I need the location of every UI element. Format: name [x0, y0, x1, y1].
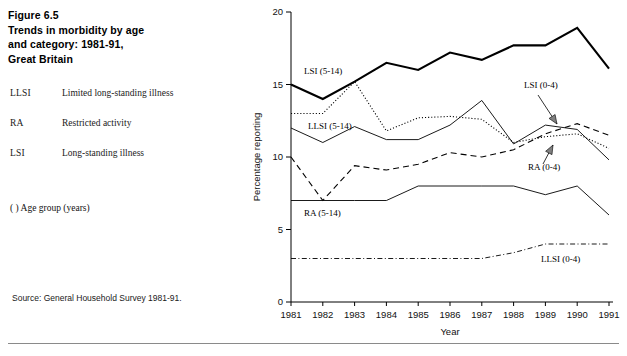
figure-title-line-2: Trends in morbidity by age [8, 23, 248, 38]
left-text-column: Figure 6.5 Trends in morbidity by age an… [8, 8, 248, 348]
x-tick-label: 1983 [344, 309, 365, 320]
chart-axes: 0510152019811982198319841985198619871988… [251, 6, 620, 337]
x-tick-label: 1982 [312, 309, 333, 320]
x-axis-title: Year [440, 326, 459, 337]
x-tick-label: 1990 [567, 309, 588, 320]
legend-row-llsi: LLSI Limited long-standing illness [10, 88, 248, 118]
figure-title-line-4: Great Britain [8, 52, 248, 67]
age-group-note: ( ) Age group (years) [10, 203, 90, 213]
figure-title-line-3: and category: 1981-91, [8, 37, 248, 52]
x-tick-label: 1987 [471, 309, 492, 320]
x-tick-label: 1985 [408, 309, 429, 320]
series-label-ra-5-14: RA (5-14) [304, 208, 341, 218]
chart-series-lines [291, 28, 609, 259]
chart-annotations: LSI (5-14)LLSI (5-14)RA (5-14)RA (0-4)LS… [304, 66, 580, 264]
series-label-lsi-0-4: LSI (0-4) [524, 80, 558, 90]
legend-abbr-llsi: LLSI [10, 88, 31, 98]
series-line-lsi-5-14 [291, 28, 609, 99]
x-tick-label: 1981 [280, 309, 301, 320]
legend-row-lsi: LSI Long-standing illness [10, 148, 248, 178]
y-tick-label: 0 [278, 296, 283, 307]
legend-text-ra: Restricted activity [62, 118, 131, 128]
x-tick-label: 1984 [376, 309, 397, 320]
series-line-lsi-0-4 [291, 124, 609, 201]
y-axis-title: Percentage reporting [251, 113, 262, 202]
bottom-divider [8, 343, 619, 344]
legend-abbr-ra: RA [10, 118, 24, 128]
x-tick-label: 1989 [535, 309, 556, 320]
annotation-arrow-head [546, 145, 553, 155]
line-chart: 0510152019811982198319841985198619871988… [246, 0, 627, 348]
x-tick-label: 1986 [439, 309, 460, 320]
figure-title-line-1: Figure 6.5 [8, 8, 248, 23]
figure-page: Figure 6.5 Trends in morbidity by age an… [0, 0, 627, 356]
source-note: Source: General Household Survey 1981-91… [12, 293, 182, 303]
chart-container: 0510152019811982198319841985198619871988… [246, 0, 627, 348]
legend-row-ra: RA Restricted activity [10, 118, 248, 148]
y-tick-label: 10 [272, 151, 283, 162]
annotation-arrow-head [549, 114, 557, 124]
abbreviation-legend: LLSI Limited long-standing illness RA Re… [10, 88, 248, 178]
x-tick-label: 1988 [503, 309, 524, 320]
y-tick-label: 5 [278, 224, 283, 235]
figure-title: Figure 6.5 Trends in morbidity by age an… [8, 8, 248, 66]
legend-text-llsi: Limited long-standing illness [62, 88, 173, 98]
series-label-ra-0-4: RA (0-4) [528, 162, 560, 172]
legend-text-lsi: Long-standing illness [62, 148, 144, 158]
y-tick-label: 15 [272, 79, 283, 90]
x-tick-label: 1991 [598, 309, 619, 320]
series-label-llsi-5-14: LLSI (5-14) [308, 121, 352, 131]
series-label-lsi-5-14: LSI (5-14) [304, 66, 342, 76]
legend-abbr-lsi: LSI [10, 148, 25, 158]
series-line-ra-0-4 [291, 82, 609, 149]
series-label-llsi-0-4: LLSI (0-4) [541, 254, 580, 264]
y-tick-label: 20 [272, 6, 283, 17]
